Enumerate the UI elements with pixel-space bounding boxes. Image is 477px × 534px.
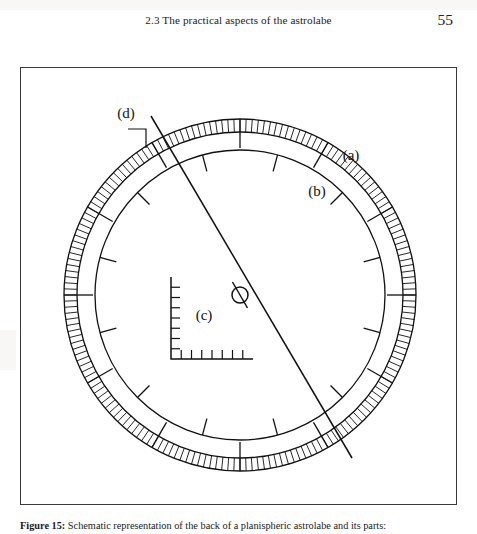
scan-artifact-left — [0, 330, 16, 370]
scan-artifact-top — [0, 0, 477, 10]
figure-caption-label: Figure 15: — [20, 520, 65, 531]
page-number: 55 — [438, 11, 454, 29]
figure-frame: (a) (b) (c) (d) — [20, 67, 457, 505]
part-label-c: (c) — [196, 307, 213, 324]
astrolabe-diagram: (a) (b) (c) (d) — [21, 68, 458, 506]
running-head-title: 2.3 The practical aspects of the astrola… — [0, 14, 477, 26]
page-header: 2.3 The practical aspects of the astrola… — [0, 14, 477, 32]
part-label-b: (b) — [308, 183, 326, 200]
figure-caption: Figure 15: Schematic representation of t… — [20, 519, 460, 532]
alidade-rule — [151, 116, 352, 458]
part-label-d: (d) — [117, 105, 135, 122]
figure-caption-text: Schematic representation of the back of … — [65, 520, 386, 531]
leader-line-d — [128, 129, 146, 148]
part-label-a: (a) — [343, 147, 360, 164]
